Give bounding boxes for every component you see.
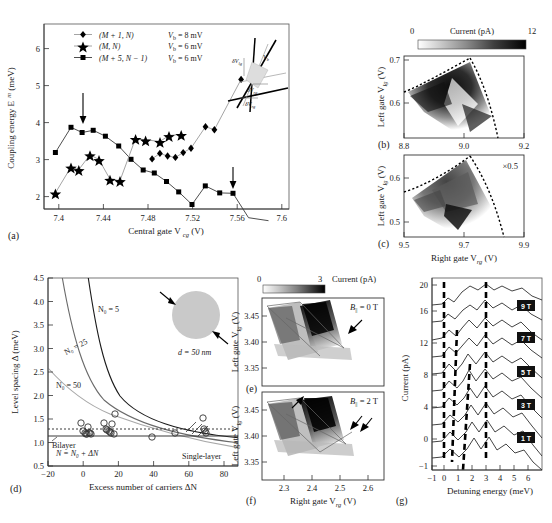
panel-f-xtick-1: 2.4 [307, 483, 318, 493]
panel-a-inset-stability-diagram: δVlg δVrg δVrg Vb [228, 38, 288, 112]
panel-a-xtick-1: 7.4 [53, 213, 64, 223]
panel-g-ytick-3: 8 [424, 370, 428, 380]
panel-f-xtick-0: 2.3 [279, 483, 290, 493]
legend-marker-diamond [80, 31, 86, 38]
panel-a-arrow-2 [230, 167, 237, 189]
panel-a-xlabel-text: Central gate V [128, 226, 181, 236]
panel-c-scale-annotation: ×0.5 [503, 161, 518, 171]
panel-d-dot-size-label: d = 50 nm [178, 348, 211, 357]
trace-label-3T: 3 T [521, 402, 532, 409]
trace-label-9T: 9 T [521, 303, 532, 310]
svg-text:Left gate Vlg (V): Left gate Vlg (V) [376, 166, 388, 227]
panel-e-cb-label: Current (pA) [332, 274, 376, 284]
panel-a-ytick-3: 3 [36, 155, 40, 165]
panel-d-ytick-1: 1.0 [33, 438, 44, 448]
panel-a-xlabel-sub: cg [183, 231, 190, 238]
panel-a-xlabel: Central gate V cg (V) [128, 226, 203, 239]
panel-d: N₀ = 5 N₀ = 25 N₀ = 50 Bilayer Single-la… [10, 273, 240, 495]
panel-g-x-axis: −1 0 1 2 3 4 5 6 [427, 465, 542, 483]
panel-a-legend-bias-1: Vb = 6 mV [168, 42, 203, 52]
panel-f-ytick-0: 3.35 [244, 457, 259, 467]
panel-e-ytick-1: 3.40 [244, 337, 259, 347]
svg-text:Left gate Vlg (V): Left gate Vlg (V) [230, 406, 242, 467]
inset-label-2: δVrg [245, 101, 256, 109]
panel-f-xtick-3: 2.6 [363, 483, 374, 493]
panel-e-cb-max: 3 [318, 274, 322, 284]
panel-d-xlabel: Excess number of carriers ΔN [89, 482, 198, 492]
panel-g-xtick-1: 0 [442, 473, 446, 483]
panel-a-ylabel-sup: m [5, 93, 12, 98]
panel-c-xtick-0: 9.5 [399, 240, 410, 250]
panel-a-xtick-4: 7.52 [185, 213, 200, 223]
panel-a-ytick-6: 6 [36, 44, 40, 54]
panel-f: B|| = 2 T 3.35 3.40 3.45 2.3 2.4 2.5 2.6… [230, 392, 384, 508]
panel-g-xtick-2: 1 [456, 473, 460, 483]
trace-label-1T: 1 T [521, 435, 532, 442]
panel-a-y-axis: 2 3 4 5 6 [36, 24, 49, 209]
panel-f-ytick-1: 3.40 [244, 431, 259, 441]
panel-g-ytick-2: 4 [424, 402, 429, 412]
panel-a-id: (a) [8, 230, 19, 242]
panel-g-ytick-5: 16 [420, 306, 429, 316]
panel-b-xtick-2: 9.2 [519, 141, 530, 151]
panel-b-ytick-1: 0.7 [389, 55, 400, 65]
panel-f-id: (f) [246, 495, 256, 507]
legend-marker-star [77, 42, 89, 53]
panel-d-curve-N5 [88, 276, 240, 438]
figure-container: 2 3 4 5 6 7.4 7.44 7.48 7.52 7.56 7.6 Co… [0, 0, 552, 523]
panel-a-ylabel-text: Coupling energy E [6, 100, 16, 168]
panel-b-colorbar: 0 Current (pA) 12 [410, 26, 536, 49]
panel-a-ytick-2: 2 [36, 192, 40, 202]
panel-c-xtick-1: 9.7 [459, 240, 470, 250]
panel-b-ylabel: Left gate Vlg (V) [376, 67, 388, 128]
panel-d-curve-label-0: N₀ = 5 [98, 305, 119, 314]
panel-a-legend-label-2: (M + 5, N − 1) [99, 54, 147, 63]
panel-b-cb-max: 12 [528, 26, 537, 36]
panel-c-id: (c) [378, 238, 389, 250]
panel-g-xlabel: Detuning energy (meV) [447, 486, 533, 496]
panel-e-ytick-2: 3.45 [244, 311, 259, 321]
panel-c-xtick-2: 9.9 [519, 240, 530, 250]
panel-f-field-label: B|| = 2 T [350, 396, 379, 407]
panel-a: 2 3 4 5 6 7.4 7.44 7.48 7.52 7.56 7.6 Co… [3, 24, 289, 242]
panel-a-arrow-1 [80, 93, 87, 124]
panel-a-legend-label-1: (M, N) [99, 42, 121, 51]
panel-a-series-square-markers [53, 125, 236, 207]
panel-f-ytick-2: 3.45 [244, 405, 259, 415]
panel-d-y-axis: 0.5 1.0 1.5 2.0 2.5 3.0 3.5 4.0 4.5 [33, 273, 53, 471]
panel-e-id: (e) [246, 383, 257, 395]
panel-d-xtick-4: 60 [185, 469, 194, 479]
panel-a-xtick-6: 7.6 [276, 213, 287, 223]
panel-d-xtick-1: 0 [81, 469, 85, 479]
panel-a-legend-label-0: (M + 1, N) [99, 31, 134, 40]
panel-g-id: (g) [396, 495, 408, 507]
panel-c-ytick-0: 0.5 [389, 217, 400, 227]
panel-g-xtick-7: 6 [526, 473, 530, 483]
panel-d-ytick-5: 3.0 [33, 344, 44, 354]
panel-a-xtick-5: 7.56 [230, 213, 245, 223]
panel-g-trace-labels: 9 T 7 T 5 T 3 T 1 T [517, 300, 535, 443]
panel-g-ytick-6: 20 [420, 280, 429, 290]
panel-d-xtick-3: 40 [149, 469, 158, 479]
panel-e-cb-min: 0 [257, 274, 261, 284]
svg-text:Left gate Vlg (V): Left gate Vlg (V) [230, 312, 242, 373]
panel-a-ytick-5: 5 [36, 81, 40, 91]
panel-g-xtick-6: 5 [512, 473, 516, 483]
panel-a-series-diamond-line [152, 79, 241, 158]
panel-a-legend-row-2: (M + 5, N − 1) Vb = 6 mV [74, 54, 203, 64]
panel-e-colorbar: 0 3 Current (pA) [257, 274, 376, 293]
panel-f-ylabel: Left gate Vlg (V) [230, 406, 242, 467]
panel-a-series-star-markers [50, 130, 187, 199]
panel-d-label-formula: N = N₀ + ΔN [55, 449, 99, 458]
panel-g-ylabel: Current (pA) [400, 355, 410, 402]
panel-c-ylabel: Left gate Vlg (V) [376, 166, 388, 227]
panel-d-ytick-6: 3.5 [33, 320, 44, 330]
panel-b-xtick-1: 9.0 [459, 141, 470, 151]
svg-text:Coupling energy E m: Coupling energy E m (meV) [3, 67, 16, 169]
panel-b-cb-min: 0 [410, 26, 414, 36]
panel-a-x-axis: 7.4 7.44 7.48 7.52 7.56 7.6 [44, 204, 289, 223]
panel-a-ylabel-unit: (meV) [6, 67, 16, 91]
panel-d-ytick-3: 2.0 [33, 391, 44, 401]
panel-g-ytick-4: 12 [420, 338, 429, 348]
panel-a-legend-bias-2: Vb = 6 mV [168, 54, 203, 64]
